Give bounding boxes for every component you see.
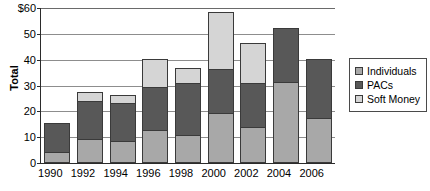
y-axis-title: Total [8,42,20,114]
legend-item-individuals[interactable]: Individuals [355,64,422,78]
bar-segment-softmoney[interactable] [240,43,266,84]
bar-segment-pacs[interactable] [77,101,103,139]
bar-segment-pacs[interactable] [240,83,266,128]
bar-group[interactable] [273,29,299,163]
bar-segment-softmoney[interactable] [110,95,136,104]
bar-segment-individuals[interactable] [273,82,299,163]
bar-segment-pacs[interactable] [208,69,234,114]
legend-label: PACs [367,80,393,91]
bar-group[interactable] [306,60,332,163]
legend-swatch-icon [355,95,363,103]
bar-segment-individuals[interactable] [44,152,70,163]
bar-group[interactable] [77,93,103,163]
stacked-bar-chart: Total 01020304050$60 1990199219941996199… [0,0,430,191]
bar-segment-pacs[interactable] [44,123,70,152]
bar-segment-softmoney[interactable] [208,12,234,70]
bar-group[interactable] [142,60,168,163]
bar-group[interactable] [44,124,70,163]
bar-segment-pacs[interactable] [110,103,136,143]
bar-segment-individuals[interactable] [306,118,332,163]
bar-segment-individuals[interactable] [77,139,103,163]
y-axis-tick-label: $60 [18,2,36,14]
bar-segment-pacs[interactable] [306,59,332,119]
y-axis-tick-label: 30 [24,80,36,92]
legend-item-soft-money[interactable]: Soft Money [355,92,422,106]
y-axis-tick-mark [37,163,41,164]
bar-group[interactable] [175,69,201,163]
bar-segment-softmoney[interactable] [77,92,103,102]
legend-label: Soft Money [367,94,420,105]
bar-segment-pacs[interactable] [142,87,168,131]
bars-layer [41,8,335,163]
bar-segment-individuals[interactable] [208,113,234,163]
legend-swatch-icon [355,67,363,75]
legend-swatch-icon [355,81,363,89]
legend-label: Individuals [367,66,417,77]
bar-segment-individuals[interactable] [240,127,266,163]
bar-segment-pacs[interactable] [273,28,299,83]
bar-group[interactable] [208,13,234,163]
chart-legend: IndividualsPACsSoft Money [349,58,427,112]
y-axis-tick-label: 50 [24,28,36,40]
bar-segment-softmoney[interactable] [175,68,201,85]
bar-segment-individuals[interactable] [110,141,136,163]
bar-segment-pacs[interactable] [175,83,201,136]
legend-item-pacs[interactable]: PACs [355,78,422,92]
x-axis-tick-label: 2006 [292,167,332,179]
bar-group[interactable] [110,96,136,163]
y-axis-tick-label: 40 [24,54,36,66]
bar-segment-individuals[interactable] [142,130,168,163]
y-axis-tick-label: 10 [24,131,36,143]
bar-segment-softmoney[interactable] [142,59,168,88]
plot-area: 01020304050$60 1990199219941996199820002… [40,8,335,164]
bar-segment-individuals[interactable] [175,135,201,163]
y-axis-tick-label: 20 [24,105,36,117]
bar-group[interactable] [240,44,266,163]
